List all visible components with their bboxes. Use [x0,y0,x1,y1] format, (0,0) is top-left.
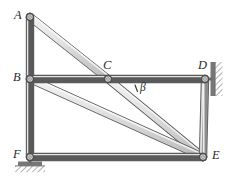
angle-beta-tick [135,85,138,92]
node-label-f: F [13,148,21,161]
node-label-d: D [198,59,207,72]
joint-a [27,14,34,21]
member-c-d [108,77,205,79]
member-a-c [30,15,110,79]
frame-diagram: A B C D E F β [0,0,232,180]
joint-c [105,76,112,83]
member-b-c [30,77,108,79]
node-label-b: B [13,71,21,84]
member-d-e [201,79,205,157]
member-b-f [28,79,30,157]
joint-b [27,76,34,83]
member-a-b [28,17,30,79]
member-f-e [30,155,203,157]
joint-f [27,154,34,161]
truss-drawing [0,0,232,180]
joint-e [200,154,207,161]
node-label-c: C [103,59,111,72]
node-label-a: A [14,9,22,22]
angle-label-beta: β [140,82,146,94]
joint-d [202,76,209,83]
node-label-e: E [212,149,220,162]
